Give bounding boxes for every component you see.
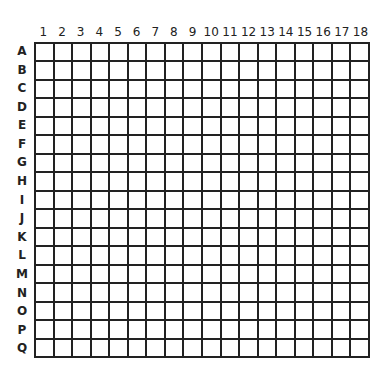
grid-cell-J13[interactable]	[259, 210, 278, 228]
grid-cell-D5[interactable]	[110, 99, 129, 117]
grid-cell-H18[interactable]	[351, 173, 370, 191]
grid-cell-C8[interactable]	[166, 81, 185, 99]
grid-cell-M12[interactable]	[240, 266, 259, 284]
grid-cell-F1[interactable]	[36, 136, 55, 154]
grid-cell-G12[interactable]	[240, 155, 259, 173]
grid-cell-G5[interactable]	[110, 155, 129, 173]
grid-cell-H17[interactable]	[333, 173, 352, 191]
grid-cell-P10[interactable]	[203, 321, 222, 339]
grid-cell-C18[interactable]	[351, 81, 370, 99]
grid-cell-G2[interactable]	[55, 155, 74, 173]
grid-cell-I13[interactable]	[259, 192, 278, 210]
grid-cell-Q7[interactable]	[147, 340, 166, 358]
grid-cell-H14[interactable]	[277, 173, 296, 191]
grid-cell-L1[interactable]	[36, 247, 55, 265]
grid-cell-Q14[interactable]	[277, 340, 296, 358]
grid-cell-E9[interactable]	[184, 118, 203, 136]
grid-cell-Q17[interactable]	[333, 340, 352, 358]
grid-cell-J10[interactable]	[203, 210, 222, 228]
grid-cell-P4[interactable]	[92, 321, 111, 339]
grid-cell-J18[interactable]	[351, 210, 370, 228]
grid-cell-C2[interactable]	[55, 81, 74, 99]
grid-cell-M16[interactable]	[314, 266, 333, 284]
grid-cell-M3[interactable]	[73, 266, 92, 284]
grid-cell-P8[interactable]	[166, 321, 185, 339]
grid-cell-L5[interactable]	[110, 247, 129, 265]
grid-cell-C12[interactable]	[240, 81, 259, 99]
grid-cell-J8[interactable]	[166, 210, 185, 228]
grid-cell-F12[interactable]	[240, 136, 259, 154]
grid-cell-B10[interactable]	[203, 62, 222, 80]
grid-cell-C5[interactable]	[110, 81, 129, 99]
grid-cell-A6[interactable]	[129, 44, 148, 62]
grid-cell-Q1[interactable]	[36, 340, 55, 358]
grid-cell-O18[interactable]	[351, 303, 370, 321]
grid-cell-O14[interactable]	[277, 303, 296, 321]
grid-cell-N15[interactable]	[296, 284, 315, 302]
grid-cell-N12[interactable]	[240, 284, 259, 302]
grid-cell-D1[interactable]	[36, 99, 55, 117]
grid-cell-O17[interactable]	[333, 303, 352, 321]
grid-cell-L16[interactable]	[314, 247, 333, 265]
grid-cell-B6[interactable]	[129, 62, 148, 80]
grid-cell-C17[interactable]	[333, 81, 352, 99]
grid-cell-L15[interactable]	[296, 247, 315, 265]
grid-cell-M10[interactable]	[203, 266, 222, 284]
grid-cell-E14[interactable]	[277, 118, 296, 136]
grid-cell-L9[interactable]	[184, 247, 203, 265]
grid-cell-D17[interactable]	[333, 99, 352, 117]
grid-cell-G9[interactable]	[184, 155, 203, 173]
grid-cell-C4[interactable]	[92, 81, 111, 99]
grid-cell-O4[interactable]	[92, 303, 111, 321]
grid-cell-C13[interactable]	[259, 81, 278, 99]
grid-cell-Q9[interactable]	[184, 340, 203, 358]
grid-cell-M11[interactable]	[222, 266, 241, 284]
grid-cell-B17[interactable]	[333, 62, 352, 80]
grid-cell-A7[interactable]	[147, 44, 166, 62]
grid-cell-N7[interactable]	[147, 284, 166, 302]
grid-cell-D2[interactable]	[55, 99, 74, 117]
grid-cell-D10[interactable]	[203, 99, 222, 117]
grid-cell-E8[interactable]	[166, 118, 185, 136]
grid-cell-A8[interactable]	[166, 44, 185, 62]
grid-cell-P12[interactable]	[240, 321, 259, 339]
grid-cell-I15[interactable]	[296, 192, 315, 210]
grid-cell-I14[interactable]	[277, 192, 296, 210]
grid-cell-G10[interactable]	[203, 155, 222, 173]
grid-cell-O9[interactable]	[184, 303, 203, 321]
grid-cell-A16[interactable]	[314, 44, 333, 62]
grid-cell-I9[interactable]	[184, 192, 203, 210]
grid-cell-J2[interactable]	[55, 210, 74, 228]
grid-cell-I4[interactable]	[92, 192, 111, 210]
grid-cell-Q3[interactable]	[73, 340, 92, 358]
grid-cell-G6[interactable]	[129, 155, 148, 173]
grid-cell-I3[interactable]	[73, 192, 92, 210]
grid-cell-O1[interactable]	[36, 303, 55, 321]
grid-cell-C11[interactable]	[222, 81, 241, 99]
grid-cell-J4[interactable]	[92, 210, 111, 228]
grid-cell-K2[interactable]	[55, 229, 74, 247]
grid-cell-M5[interactable]	[110, 266, 129, 284]
grid-cell-D6[interactable]	[129, 99, 148, 117]
grid-cell-O8[interactable]	[166, 303, 185, 321]
grid-cell-D18[interactable]	[351, 99, 370, 117]
grid-cell-J6[interactable]	[129, 210, 148, 228]
grid-cell-N2[interactable]	[55, 284, 74, 302]
grid-cell-Q13[interactable]	[259, 340, 278, 358]
grid-cell-N10[interactable]	[203, 284, 222, 302]
grid-cell-F4[interactable]	[92, 136, 111, 154]
grid-cell-A2[interactable]	[55, 44, 74, 62]
grid-cell-M6[interactable]	[129, 266, 148, 284]
grid-cell-O10[interactable]	[203, 303, 222, 321]
grid-cell-M18[interactable]	[351, 266, 370, 284]
grid-cell-I1[interactable]	[36, 192, 55, 210]
grid-cell-E4[interactable]	[92, 118, 111, 136]
grid-cell-K18[interactable]	[351, 229, 370, 247]
grid-cell-L17[interactable]	[333, 247, 352, 265]
grid-cell-F8[interactable]	[166, 136, 185, 154]
grid-cell-H1[interactable]	[36, 173, 55, 191]
grid-cell-H7[interactable]	[147, 173, 166, 191]
grid-cell-K4[interactable]	[92, 229, 111, 247]
grid-cell-J1[interactable]	[36, 210, 55, 228]
grid-cell-A5[interactable]	[110, 44, 129, 62]
